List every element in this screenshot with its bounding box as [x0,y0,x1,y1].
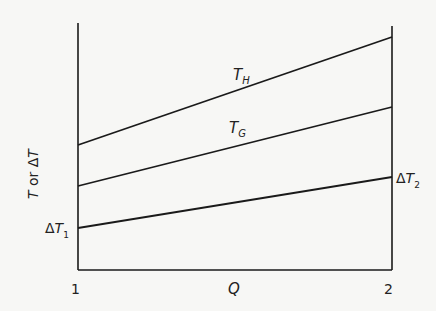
x-tick-1: 1 [71,281,80,297]
x-axis-label: Q [228,280,240,298]
line-delta-t [78,177,392,228]
label-delta-t2: ΔT2 [396,170,420,190]
label-delta-t1: ΔT1 [45,220,69,240]
label-t-g: TG [229,119,246,139]
label-t-h: TH [233,66,250,86]
x-tick-2: 2 [384,281,393,297]
diagram-canvas: TH TG ΔT1 ΔT2 T or ΔT 1 2 Q [0,0,436,311]
y-axis-label: T or ΔT [25,148,41,199]
